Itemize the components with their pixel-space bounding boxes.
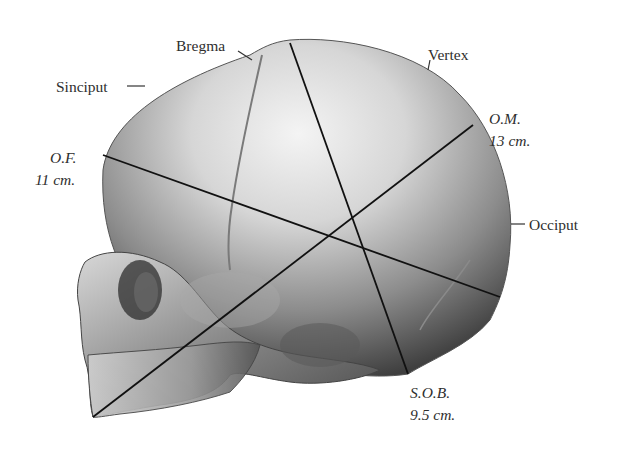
label-sinciput: Sinciput	[56, 77, 108, 96]
label-om-length: 13 cm.	[489, 131, 530, 150]
label-bregma: Bregma	[176, 36, 225, 55]
label-vertex: Vertex	[428, 45, 468, 64]
label-om-name: O.M.	[489, 109, 521, 128]
label-of-name: O.F.	[50, 148, 76, 167]
label-sob-name: S.O.B.	[410, 383, 450, 402]
label-occiput: Occiput	[529, 215, 578, 234]
ear-region	[280, 323, 360, 367]
label-sob-length: 9.5 cm.	[410, 405, 455, 424]
mandible	[88, 342, 260, 417]
skull-diagram: Bregma Sinciput Vertex Occiput O.F. 11 c…	[0, 0, 629, 454]
label-of-length: 11 cm.	[35, 170, 75, 189]
